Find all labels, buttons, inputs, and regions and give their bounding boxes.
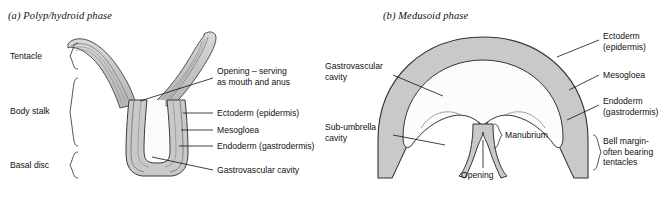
label-bell-margin-line2: often bearing <box>603 147 653 157</box>
label-ectoderm-line1: Ectoderm <box>603 31 640 41</box>
leader-label-ectoderm: Ectoderm (epidermis) <box>217 108 299 119</box>
bracket-label-tentacle: Tentacle <box>10 51 42 62</box>
label-sub-umbrella-cavity: Sub-umbrella cavity <box>325 122 397 143</box>
panel-medusoid-phase: (b) Medusoid phase <box>331 0 662 197</box>
leader-label-gastrovascular-cavity: Gastrovascular cavity <box>217 165 299 176</box>
polyp-bracket-group <box>70 43 78 178</box>
label-ectoderm: Ectoderm (epidermis) <box>603 31 662 52</box>
leader-label-opening-mouth-anus: Opening – serving as mouth and anus <box>217 66 317 87</box>
polyp-body-stalk <box>126 100 188 176</box>
polyp-right-tentacle <box>157 32 216 108</box>
cnidarian-life-phases-figure: (a) Polyp/hydroid phase <box>0 0 662 197</box>
label-sub-umbrella-cavity-line2: cavity <box>325 133 347 143</box>
leader-label-opening-line2: as mouth and anus <box>217 77 290 87</box>
label-endoderm-line2: (gastrodermis) <box>603 107 658 117</box>
label-endoderm-line1: Endoderm <box>603 96 643 106</box>
label-bell-margin-line1: Bell margin- <box>603 136 649 146</box>
panel-polyp-phase: (a) Polyp/hydroid phase <box>0 0 331 197</box>
label-manubrium: Manubrium <box>505 130 548 141</box>
label-opening: Opening <box>461 170 494 181</box>
polyp-left-tentacle <box>68 39 136 108</box>
label-sub-umbrella-cavity-line1: Sub-umbrella <box>325 122 376 132</box>
label-bell-margin: Bell margin- often bearing tentacles <box>603 136 662 168</box>
label-bell-margin-line3: tentacles <box>603 157 637 167</box>
leader-label-endoderm: Endoderm (gastrodermis) <box>217 141 314 152</box>
label-mesogloea: Mesogloea <box>603 70 645 81</box>
leader-label-mesogloea: Mesogloea <box>217 125 259 136</box>
medusa-bell-margin-bracket <box>593 135 601 170</box>
label-ectoderm-line2: (epidermis) <box>603 42 646 52</box>
label-gastrovascular-cavity-line1: Gastrovascular <box>325 61 383 71</box>
bracket-label-body-stalk: Body stalk <box>10 106 50 117</box>
bracket-label-basal-disc: Basal disc <box>10 160 49 171</box>
medusa-manubrium-bracket <box>494 124 502 148</box>
label-gastrovascular-cavity-line2: cavity <box>325 72 347 82</box>
leader-label-opening-line1: Opening – serving <box>217 66 287 76</box>
label-endoderm: Endoderm (gastrodermis) <box>603 96 662 117</box>
label-gastrovascular-cavity: Gastrovascular cavity <box>325 61 397 82</box>
